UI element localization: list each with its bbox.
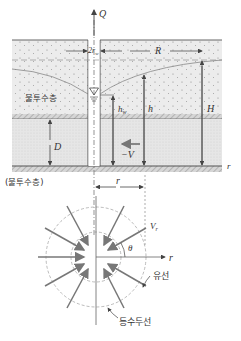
well-flow-diagram: Q 2rw R 불투수층 hw h H [0,0,241,341]
streamline-label: 유선 [153,271,169,281]
plan-view: r θ Vr 유선 등수두선 [38,196,173,327]
upper-impermeable-label: 불투수층 [25,93,57,103]
original-head-label: H [206,103,215,114]
aquifer-thickness-label: D [53,141,62,152]
head-label: h [148,103,153,114]
lower-impermeable-label: (불투수층) [5,177,44,187]
equipotential-leader [108,308,118,318]
cross-section: Q 2rw R 불투수층 hw h H [5,8,231,245]
angle-label: θ [128,243,133,253]
plan-radial-axis-label: r [169,252,173,263]
upper-impermeable-hatch-left [12,114,88,119]
streamline-leader [143,276,150,287]
radial-velocity-label: Vr [150,221,159,232]
upper-impermeable-hatch-right [100,114,222,119]
radial-axis-label: r [227,161,231,171]
lower-impermeable-hatch [12,166,222,172]
velocity-label: −V [121,149,136,160]
discharge-label: Q [99,8,107,19]
radius-of-influence-label: R [154,45,161,56]
distance-label: r [116,175,120,186]
equipotential-label: 등수두선 [119,317,151,327]
angle-arc [121,243,125,257]
aquifer-right [100,119,222,166]
